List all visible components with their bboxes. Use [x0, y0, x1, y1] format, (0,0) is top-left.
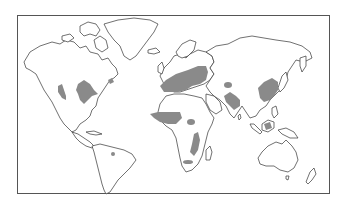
shaded-region-central-asia: [224, 82, 232, 88]
sumatra: [250, 124, 262, 134]
shaded-region-paraguay: [111, 152, 115, 156]
cuba: [86, 131, 102, 135]
kamchatka: [300, 56, 306, 72]
iceland: [148, 48, 160, 54]
world-map: [0, 0, 348, 209]
landmasses: [24, 18, 316, 194]
sri-lanka: [238, 114, 241, 120]
australia: [258, 140, 298, 172]
north-america: [24, 40, 118, 132]
asia: [206, 36, 312, 118]
philippines: [272, 106, 278, 118]
madagascar: [206, 146, 212, 160]
shaded-region-sahel: [150, 112, 182, 124]
greenland: [104, 18, 158, 60]
new-zealand: [306, 168, 316, 184]
victoria-island: [62, 34, 74, 42]
shaded-region-south-africa: [183, 160, 193, 164]
tasmania: [286, 176, 289, 180]
south-america: [92, 144, 136, 194]
new-guinea: [278, 128, 298, 138]
baffin-island: [94, 36, 108, 52]
arctic-islands: [80, 22, 100, 36]
shaded-region-east-africa: [187, 119, 195, 125]
